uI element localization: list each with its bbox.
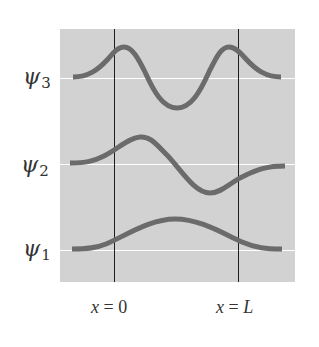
psi1-subscript: 1	[41, 246, 51, 264]
x-zero-value: = 0	[99, 297, 127, 317]
psi3-label: ψ3	[23, 66, 51, 91]
wavefunction-figure: ψ3 ψ2 ψ1 x = 0 x = L	[0, 0, 319, 347]
x-zero-label: x = 0	[91, 298, 127, 316]
psi3-subscript: 3	[41, 74, 51, 92]
x-L-variable: x	[216, 297, 224, 317]
psi1-symbol: ψ	[23, 236, 40, 261]
psi2-subscript: 2	[39, 162, 49, 180]
psi2-symbol: ψ	[21, 152, 38, 177]
x-L-equals: =	[224, 297, 243, 317]
psi3-symbol: ψ	[23, 64, 40, 89]
psi1-label: ψ1	[23, 238, 51, 263]
x-L-value: L	[243, 297, 253, 317]
x-L-label: x = L	[216, 298, 253, 316]
psi2-label: ψ2	[21, 154, 49, 179]
plot-panel	[60, 29, 295, 282]
x-zero-variable: x	[91, 297, 99, 317]
